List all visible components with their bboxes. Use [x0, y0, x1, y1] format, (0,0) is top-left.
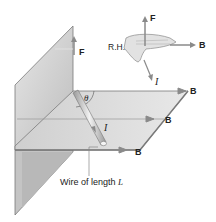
- diagram-graphic: [0, 0, 216, 222]
- wire-caption: Wire of length L: [60, 178, 123, 187]
- right-hand-label: R.H.: [108, 43, 125, 52]
- field-label-mid: B: [165, 116, 172, 125]
- diagram: F F R.H. B I B B B I θ Wire of length L: [0, 0, 216, 222]
- current-label-wire: I: [104, 123, 107, 133]
- wire-caption-text: Wire of length: [60, 177, 116, 187]
- wire-leader-line: [89, 147, 98, 176]
- right-hand-icon: [124, 16, 196, 81]
- field-label-bottom: B: [135, 148, 142, 157]
- field-label-hand: B: [199, 41, 206, 50]
- current-label-hand: I: [155, 77, 158, 87]
- angle-label: θ: [84, 94, 88, 103]
- field-label-top: B: [190, 87, 197, 96]
- wire-length-symbol: L: [118, 177, 123, 187]
- force-label-plate: F: [79, 48, 85, 57]
- force-label-hand: F: [150, 14, 156, 23]
